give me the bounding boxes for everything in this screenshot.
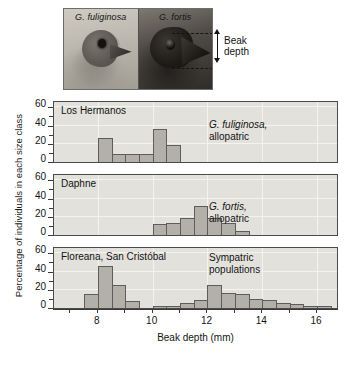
histogram-bar bbox=[153, 306, 168, 308]
histogram-bar bbox=[125, 154, 140, 162]
y-axis-tick-label: 20 bbox=[16, 280, 46, 291]
histogram-bar bbox=[262, 300, 277, 308]
y-axis-tick bbox=[48, 308, 53, 309]
x-axis-tick bbox=[234, 309, 235, 313]
x-axis-tick-label: 10 bbox=[146, 315, 157, 326]
x-axis-tick-label: 8 bbox=[94, 315, 100, 326]
beak-depth-annotation-line1: Beak bbox=[224, 35, 249, 47]
y-axis-tick bbox=[48, 144, 53, 145]
gridline-vertical bbox=[317, 248, 318, 308]
panel-title-daphne: Daphne bbox=[61, 178, 96, 189]
x-axis-tick bbox=[206, 309, 207, 313]
x-axis-tick bbox=[179, 309, 180, 313]
gridline-vertical bbox=[317, 102, 318, 162]
y-axis-tick-label: 40 bbox=[16, 262, 46, 273]
gridline-vertical bbox=[98, 175, 99, 235]
y-axis-minor-tick bbox=[49, 135, 53, 136]
panel-note-sympatric: Sympatric populations bbox=[209, 252, 260, 275]
gridline-horizontal bbox=[54, 143, 337, 144]
histogram-panel-floreana-san-cristobal: Floreana, San Cristóbal Sympatric popula… bbox=[53, 247, 338, 309]
x-axis-tick-label: 12 bbox=[201, 315, 212, 326]
beak-depth-figure: G. fuliginosa G. fortis Beak depth Perce… bbox=[0, 0, 345, 372]
x-axis-tick bbox=[124, 309, 125, 313]
histogram-bar bbox=[112, 154, 127, 162]
finch-photo-fuliginosa: G. fuliginosa bbox=[64, 9, 138, 89]
histogram-bar bbox=[153, 224, 168, 235]
histogram-bar bbox=[84, 294, 99, 308]
gridline-horizontal bbox=[54, 198, 337, 199]
y-axis-minor-tick bbox=[49, 208, 53, 209]
bars-daphne bbox=[54, 175, 337, 235]
y-axis-tick bbox=[48, 272, 53, 273]
y-axis-minor-tick bbox=[49, 189, 53, 190]
beak-depth-dashed-line-top bbox=[172, 33, 212, 34]
y-axis-tick-label: 40 bbox=[16, 116, 46, 127]
histogram-bar bbox=[112, 285, 127, 308]
beak-depth-dashed-line-bottom bbox=[172, 68, 212, 69]
histogram-bar bbox=[194, 300, 209, 308]
y-axis-tick-label: 60 bbox=[16, 98, 46, 109]
y-axis-tick-label: 0 bbox=[16, 226, 46, 237]
y-axis-minor-tick bbox=[49, 281, 53, 282]
panel-note-species: Sympatric bbox=[209, 252, 260, 264]
double-headed-vertical-arrow-icon bbox=[213, 29, 222, 63]
panel-note-species: G. fortis, bbox=[209, 201, 249, 213]
y-axis-tick bbox=[48, 199, 53, 200]
histogram-bar bbox=[235, 231, 250, 235]
gridline-horizontal bbox=[54, 125, 337, 126]
gridline-horizontal bbox=[54, 271, 337, 272]
y-axis-tick bbox=[48, 107, 53, 108]
histogram-bar bbox=[166, 306, 181, 308]
panel-title-floreana-san-cristobal: Floreana, San Cristóbal bbox=[61, 251, 166, 262]
beak-depth-annotation-label: Beak depth bbox=[224, 35, 249, 58]
x-axis-tick-label: 14 bbox=[256, 315, 267, 326]
histogram-bar bbox=[180, 218, 195, 235]
x-axis-tick bbox=[261, 309, 262, 313]
beak-depth-annotation: Beak depth bbox=[213, 24, 283, 68]
histogram-bar bbox=[249, 299, 264, 308]
x-axis-line bbox=[53, 309, 338, 310]
y-axis-tick-label: 60 bbox=[16, 244, 46, 255]
y-axis-tick-label: 40 bbox=[16, 189, 46, 200]
x-axis-tick-label: 16 bbox=[311, 315, 322, 326]
histogram-bar bbox=[98, 266, 113, 308]
gridline-vertical bbox=[262, 175, 263, 235]
y-axis-minor-tick bbox=[49, 299, 53, 300]
y-axis-tick bbox=[48, 217, 53, 218]
y-axis-minor-tick bbox=[49, 153, 53, 154]
finch-eye bbox=[166, 39, 176, 49]
histogram-bar bbox=[290, 304, 305, 308]
histogram-bar bbox=[166, 145, 181, 162]
y-axis-tick-label: 20 bbox=[16, 134, 46, 145]
finch-photo-fortis: G. fortis bbox=[138, 9, 213, 89]
x-axis-title: Beak depth (mm) bbox=[53, 332, 338, 343]
histogram-panel-daphne: Daphne G. fortis, allopatric bbox=[53, 174, 338, 236]
histogram-bar bbox=[139, 154, 154, 162]
histogram-bar bbox=[235, 294, 250, 308]
histogram-bar bbox=[153, 129, 168, 162]
panel-note-status: populations bbox=[209, 264, 260, 276]
histogram-chart-area: Percentage of individuals in each size c… bbox=[0, 96, 345, 372]
y-axis-minor-tick bbox=[49, 226, 53, 227]
panel-note-daphne: G. fortis, allopatric bbox=[209, 201, 249, 224]
histogram-bar bbox=[276, 303, 291, 308]
y-axis-tick bbox=[48, 253, 53, 254]
x-axis-tick bbox=[97, 309, 98, 313]
x-axis-tick bbox=[152, 309, 153, 313]
y-axis-panel-1: 0204060 bbox=[0, 174, 53, 236]
histogram-bar bbox=[221, 223, 236, 235]
finch-beak bbox=[110, 43, 132, 61]
panel-title-los-hermanos: Los Hermanos bbox=[61, 105, 126, 116]
y-axis-tick bbox=[48, 126, 53, 127]
histogram-bar bbox=[303, 306, 318, 308]
photo-caption-fuliginosa: G. fuliginosa bbox=[64, 12, 138, 22]
arrow-shaft bbox=[217, 32, 218, 60]
photo-caption-fortis: G. fortis bbox=[139, 12, 213, 22]
gridline-horizontal bbox=[54, 289, 337, 290]
histogram-bar bbox=[180, 303, 195, 308]
panel-note-species: G. fuliginosa, bbox=[209, 119, 267, 131]
y-axis-tick bbox=[48, 235, 53, 236]
panel-note-status: allopatric bbox=[209, 213, 249, 225]
y-axis-tick bbox=[48, 290, 53, 291]
histogram-bar bbox=[125, 301, 140, 308]
